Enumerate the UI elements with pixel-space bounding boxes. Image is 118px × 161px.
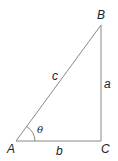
side-label-c: c xyxy=(52,69,58,83)
side-c-hypotenuse xyxy=(16,25,101,141)
angle-theta-arc xyxy=(27,127,35,142)
right-triangle-diagram: B A C a b c θ xyxy=(0,0,118,161)
vertex-label-b: B xyxy=(97,8,105,22)
side-label-b: b xyxy=(56,144,63,158)
angle-label-theta: θ xyxy=(37,124,43,135)
vertex-label-c: C xyxy=(101,142,110,156)
side-label-a: a xyxy=(104,77,111,91)
vertex-label-a: A xyxy=(6,142,15,156)
